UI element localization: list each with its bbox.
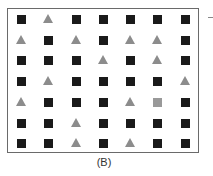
black-square-icon	[181, 56, 190, 65]
black-square-icon	[99, 98, 108, 107]
grid-cell-square	[71, 14, 81, 24]
grid-cell-triangle	[43, 76, 53, 86]
black-square-icon	[126, 119, 135, 128]
black-square-icon	[72, 15, 81, 24]
gray-triangle-icon	[152, 55, 162, 64]
black-square-icon	[126, 77, 135, 86]
black-square-icon	[153, 139, 162, 148]
gray-triangle-icon	[125, 35, 135, 44]
black-square-icon	[44, 119, 53, 128]
gray-triangle-icon	[98, 55, 108, 64]
grid-cell-square	[43, 35, 53, 45]
gray-triangle-icon	[71, 35, 81, 44]
black-square-icon	[44, 98, 53, 107]
grid-cell-square	[152, 138, 162, 148]
grid-cell-square	[98, 76, 108, 86]
black-square-icon	[153, 119, 162, 128]
gray-square-icon	[153, 98, 162, 107]
grid-cell-square	[16, 14, 26, 24]
black-square-icon	[181, 139, 190, 148]
grid-cell-triangle	[71, 118, 81, 128]
grid-cell-square	[180, 14, 190, 24]
grid-cell-square	[152, 76, 162, 86]
black-square-icon	[72, 98, 81, 107]
gray-triangle-icon	[43, 14, 53, 23]
tick-mark	[208, 17, 213, 18]
gray-triangle-icon	[71, 138, 81, 147]
black-square-icon	[17, 139, 26, 148]
grid-cell-square	[98, 118, 108, 128]
black-square-icon	[17, 77, 26, 86]
black-square-icon	[153, 77, 162, 86]
grid-cell-gray-square	[152, 97, 162, 107]
grid-cell-square	[125, 55, 135, 65]
grid-cell-triangle	[125, 138, 135, 148]
grid-cell-square	[43, 138, 53, 148]
grid-cell-triangle	[43, 14, 53, 24]
grid-cell-square	[16, 118, 26, 128]
gray-triangle-icon	[125, 138, 135, 147]
grid-cell-square	[180, 97, 190, 107]
grid-cell-square	[180, 35, 190, 45]
grid-cell-square	[98, 35, 108, 45]
grid-cell-square	[98, 138, 108, 148]
gray-triangle-icon	[16, 97, 26, 106]
gray-triangle-icon	[152, 35, 162, 44]
black-square-icon	[44, 56, 53, 65]
grid-cell-triangle	[71, 138, 81, 148]
black-square-icon	[181, 119, 190, 128]
grid-cell-square	[180, 118, 190, 128]
black-square-icon	[44, 36, 53, 45]
black-square-icon	[44, 139, 53, 148]
gray-triangle-icon	[125, 97, 135, 106]
black-square-icon	[181, 15, 190, 24]
grid-cell-square	[71, 55, 81, 65]
black-square-icon	[181, 98, 190, 107]
grid-cell-square	[98, 97, 108, 107]
black-square-icon	[99, 36, 108, 45]
black-square-icon	[181, 36, 190, 45]
black-square-icon	[99, 139, 108, 148]
black-square-icon	[17, 56, 26, 65]
figure-label: (B)	[0, 156, 208, 168]
grid-cell-square	[16, 76, 26, 86]
grid-cell-square	[180, 138, 190, 148]
grid-cell-triangle	[152, 35, 162, 45]
grid-cell-square	[16, 138, 26, 148]
black-square-icon	[153, 15, 162, 24]
grid-cell-triangle	[98, 55, 108, 65]
grid-cell-square	[125, 76, 135, 86]
grid-cell-square	[180, 55, 190, 65]
gray-triangle-icon	[43, 76, 53, 85]
grid-cell-triangle	[71, 35, 81, 45]
grid-cell-square	[152, 118, 162, 128]
grid-cell-triangle	[16, 35, 26, 45]
black-square-icon	[99, 77, 108, 86]
grid-cell-triangle	[16, 97, 26, 107]
grid-cell-square	[125, 14, 135, 24]
black-square-icon	[99, 119, 108, 128]
black-square-icon	[99, 15, 108, 24]
gray-triangle-icon	[16, 35, 26, 44]
black-square-icon	[17, 15, 26, 24]
grid-cell-square	[16, 55, 26, 65]
black-square-icon	[72, 56, 81, 65]
gray-triangle-icon	[71, 118, 81, 127]
grid-cell-triangle	[125, 35, 135, 45]
black-square-icon	[72, 77, 81, 86]
gray-triangle-icon	[180, 76, 190, 85]
grid-cell-square	[43, 97, 53, 107]
grid-cell-square	[71, 76, 81, 86]
grid-cell-square	[152, 14, 162, 24]
grid-cell-square	[98, 14, 108, 24]
black-square-icon	[126, 15, 135, 24]
grid-cell-square	[43, 55, 53, 65]
black-square-icon	[126, 56, 135, 65]
grid-cell-square	[43, 118, 53, 128]
grid-cell-triangle	[152, 55, 162, 65]
grid-cell-square	[125, 118, 135, 128]
grid-cell-triangle	[180, 76, 190, 86]
grid-cell-square	[71, 97, 81, 107]
black-square-icon	[17, 119, 26, 128]
grid-cell-triangle	[125, 97, 135, 107]
